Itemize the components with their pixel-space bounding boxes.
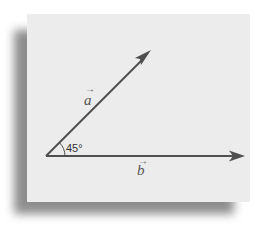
angle-label: 45° [66,142,83,154]
vector-a [46,50,151,156]
vector-a-label: → a [84,92,92,109]
vector-diagram [0,0,263,226]
vector-a-arrow-icon: → [85,83,95,94]
vector-a-letter: a [84,92,92,108]
diagram-stage: → a → b 45° [0,0,263,226]
vector-b-label: → b [137,162,145,179]
angle-arc [59,143,65,156]
vector-b-arrow-icon: → [138,155,148,166]
arrowhead-a-icon [135,50,151,65]
